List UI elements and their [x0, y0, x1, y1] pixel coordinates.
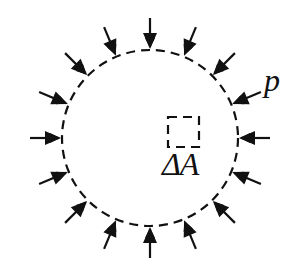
dashed-boundary-circle — [62, 50, 238, 226]
arrowhead-icon — [143, 227, 157, 243]
pressure-arrows — [30, 18, 270, 258]
arrowhead-icon — [45, 131, 61, 145]
area-element-square — [168, 117, 199, 147]
arrowhead-icon — [239, 131, 255, 145]
pressure-diagram — [0, 0, 300, 274]
pressure-label: p — [264, 62, 280, 99]
arrowhead-icon — [143, 33, 157, 49]
area-element-label: ΔA — [162, 146, 198, 183]
